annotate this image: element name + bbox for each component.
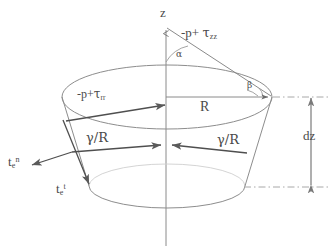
axial-stress-label: -p+ τzz <box>181 26 217 41</box>
axial-stress-subscript: zz <box>210 32 218 41</box>
axial-stress-tau-icon: τ <box>202 25 209 40</box>
radial-stress-arrow <box>66 105 165 121</box>
traction-normal-arrow <box>32 152 72 165</box>
z-axis-label: z <box>160 6 166 19</box>
traction-normal-label: ten <box>8 155 19 170</box>
beta-angle-arc <box>247 90 258 96</box>
radial-stress-label: -p+τrr <box>77 88 106 101</box>
radial-stress-prefix: -p+ <box>77 87 94 101</box>
beta-angle-label: β <box>247 81 252 90</box>
diagram-vector-layer <box>0 0 333 246</box>
traction-tangent-superscript: t <box>63 182 65 191</box>
bottom-rim-front-arc <box>89 186 245 208</box>
surface-tension-left-label: γ/R <box>86 131 108 144</box>
alpha-angle-label: α <box>176 50 182 59</box>
radial-stress-subscript: rr <box>100 93 105 102</box>
height-label: dz <box>303 129 315 142</box>
diagram-canvas: z α β -p+ τzz -p+τrr R dz γ/R γ/R ten te… <box>0 0 333 246</box>
traction-normal-superscript: n <box>15 155 19 164</box>
traction-tangent-label: tet <box>56 182 66 197</box>
cone-right-wall <box>245 97 272 186</box>
radius-label: R <box>200 100 209 114</box>
axial-stress-prefix: -p+ <box>181 25 202 40</box>
surface-tension-left-arrow <box>72 145 161 152</box>
surface-tension-right-label: γ/R <box>217 133 239 146</box>
bottom-rim-back-arc <box>89 164 245 186</box>
